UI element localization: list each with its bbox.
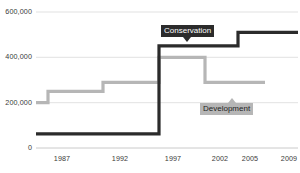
xtick-label-1997: 1997 — [165, 155, 181, 162]
annotation-conservation-label: Conservation — [161, 25, 214, 37]
ytick-label-0: 0 — [0, 144, 32, 151]
chart-container: 600,000 400,000 200,000 0 1987 1992 1997… — [0, 0, 300, 173]
ytick-label-200000: 200,000 — [0, 99, 32, 106]
ytick-label-400000: 400,000 — [0, 54, 32, 61]
annotation-conservation-pointer-icon — [183, 37, 191, 42]
chart-plot-area — [0, 0, 300, 173]
series-development-line — [36, 57, 265, 102]
xtick-label-1992: 1992 — [112, 155, 128, 162]
xtick-label-2002: 2002 — [212, 155, 228, 162]
annotation-development-label: Development — [200, 103, 253, 115]
ytick-label-600000: 600,000 — [0, 8, 32, 15]
xtick-label-1987: 1987 — [54, 155, 70, 162]
xtick-label-2009: 2009 — [281, 155, 297, 162]
xtick-label-2005: 2005 — [242, 155, 258, 162]
annotation-development-pointer-icon — [228, 98, 236, 103]
